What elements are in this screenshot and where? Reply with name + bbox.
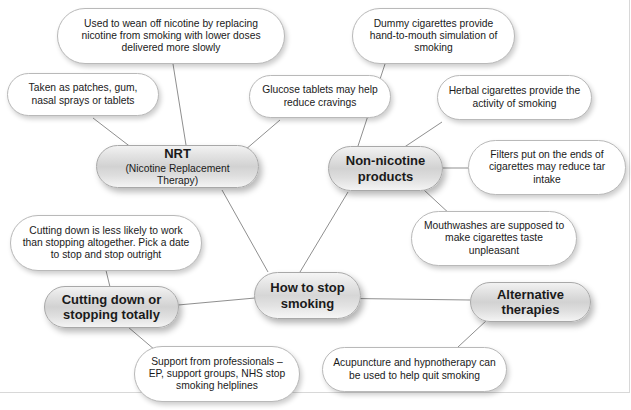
branch-label-group: NRT (Nicotine Replacement Therapy) — [107, 146, 248, 187]
leaf-text: Mouthwashes are supposed to make cigaret… — [421, 220, 567, 256]
leaf-text: Glucose tablets may help reduce cravings — [259, 84, 381, 108]
leaf-text: Support from professionals – EP, support… — [144, 356, 290, 392]
leaf-nonnic-filters[interactable]: Filters put on the ends of cigarettes ma… — [468, 140, 626, 195]
leaf-acupuncture-hypnotherapy[interactable]: Acupuncture and hypnotherapy can be used… — [322, 347, 507, 392]
leaf-nrt-glucose-tablets[interactable]: Glucose tablets may help reduce cravings — [249, 75, 391, 118]
branch-sublabel: (Nicotine Replacement Therapy) — [107, 163, 248, 187]
leaf-nonnic-mouthwashes[interactable]: Mouthwashes are supposed to make cigaret… — [411, 211, 577, 266]
leaf-nrt-patches[interactable]: Taken as patches, gum, nasal sprays or t… — [7, 73, 159, 116]
leaf-text: Cutting down is less likely to work than… — [20, 225, 192, 261]
leaf-text: Acupuncture and hypnotherapy can be used… — [332, 357, 497, 381]
leaf-nonnic-herbal-cigarettes[interactable]: Herbal cigarettes provide the activity o… — [437, 75, 592, 120]
branch-node-non-nicotine-products[interactable]: Non-nicotine products — [328, 146, 443, 191]
leaf-text: Dummy cigarettes provide hand-to-mouth s… — [362, 18, 505, 54]
center-node-how-to-stop-smoking[interactable]: How to stop smoking — [254, 272, 361, 319]
leaf-text: Taken as patches, gum, nasal sprays or t… — [17, 82, 149, 106]
leaf-text: Filters put on the ends of cigarettes ma… — [478, 149, 616, 185]
mind-map-canvas: Used to wean off nicotine by replacing n… — [0, 0, 631, 410]
branch-label: Cutting down or stopping totally — [55, 292, 168, 323]
branch-node-nrt[interactable]: NRT (Nicotine Replacement Therapy) — [96, 145, 259, 188]
branch-label: Non-nicotine products — [339, 153, 432, 184]
leaf-cutting-down-advice[interactable]: Cutting down is less likely to work than… — [10, 215, 202, 271]
leaf-nonnic-dummy-cigarettes[interactable]: Dummy cigarettes provide hand-to-mouth s… — [352, 8, 515, 64]
leaf-support-professionals[interactable]: Support from professionals – EP, support… — [134, 346, 300, 402]
center-label: How to stop smoking — [265, 280, 350, 311]
leaf-text: Used to wean off nicotine by replacing n… — [67, 18, 275, 54]
branch-label: Alternative therapies — [481, 287, 580, 318]
leaf-text: Herbal cigarettes provide the activity o… — [447, 85, 582, 109]
branch-node-alternative-therapies[interactable]: Alternative therapies — [470, 282, 591, 322]
branch-node-cutting-down-or-stopping-totally[interactable]: Cutting down or stopping totally — [44, 286, 179, 328]
leaf-nrt-wean-off[interactable]: Used to wean off nicotine by replacing n… — [57, 8, 285, 64]
branch-label: NRT — [164, 146, 191, 161]
